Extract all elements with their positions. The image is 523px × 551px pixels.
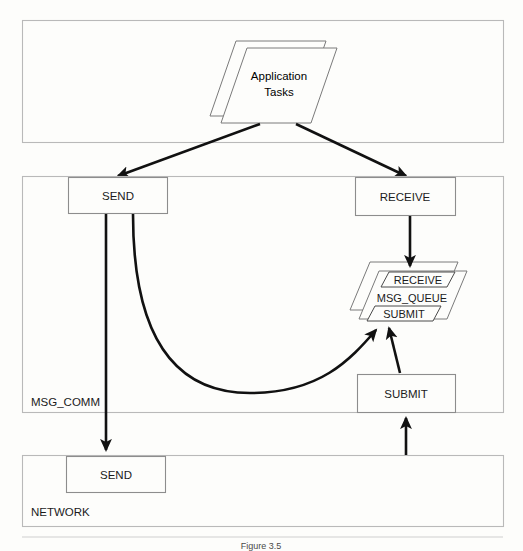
application-tasks-label-line1: Application [251, 70, 307, 82]
node-submit-label: SUBMIT [384, 388, 427, 400]
node-send-label: SEND [102, 190, 134, 202]
msg-queue-slot-receive-label: RECEIVE [394, 274, 442, 286]
architecture-diagram: Application Tasks MSG_COMM SEND RECEIVE … [0, 0, 523, 551]
network-layer-label: NETWORK [31, 506, 90, 518]
msg-comm-layer-label: MSG_COMM [31, 396, 100, 408]
application-tasks-label-line2: Tasks [264, 86, 294, 98]
figure-page: Application Tasks MSG_COMM SEND RECEIVE … [0, 0, 523, 551]
node-network-send-label: SEND [100, 469, 132, 481]
msg-queue-stack-label: MSG_QUEUE [377, 292, 447, 304]
msg-queue-slot-submit-label: SUBMIT [383, 308, 425, 320]
node-receive-label: RECEIVE [380, 191, 431, 203]
figure-caption: Figure 3.5 [241, 541, 282, 551]
